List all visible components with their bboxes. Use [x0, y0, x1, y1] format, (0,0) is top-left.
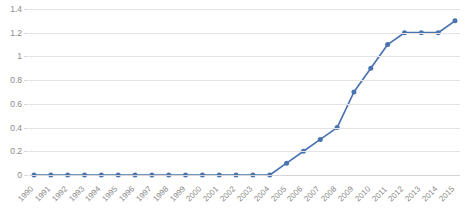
x-tick-label: 2014	[421, 185, 439, 203]
y-tick-mark	[24, 56, 28, 57]
gridline	[29, 9, 460, 10]
x-tick-label: 2010	[354, 185, 372, 203]
data-point-marker	[284, 161, 289, 166]
data-point-marker	[318, 137, 323, 142]
x-tick-label: 2003	[236, 185, 254, 203]
y-tick-mark	[24, 104, 28, 105]
plot-area	[29, 9, 460, 175]
y-tick-mark	[24, 80, 28, 81]
x-tick-label: 2008	[320, 185, 338, 203]
data-point-marker	[351, 90, 356, 95]
x-tick-label: 2000	[185, 185, 203, 203]
y-tick-label: 0	[17, 171, 22, 180]
x-tick-label: 1999	[169, 185, 187, 203]
x-tick-label: 2002	[219, 185, 237, 203]
x-tick-label: 1995	[101, 185, 119, 203]
y-tick-mark	[24, 9, 28, 10]
x-tick-label: 2006	[286, 185, 304, 203]
data-point-marker	[368, 66, 373, 71]
x-tick-label: 2015	[438, 185, 456, 203]
x-tick-label: 2012	[387, 185, 405, 203]
x-tick-label: 1997	[135, 185, 153, 203]
gridline	[29, 104, 460, 105]
y-tick-label: 1.4	[10, 5, 22, 14]
x-tick-label: 1996	[118, 185, 136, 203]
y-tick-label: 0.4	[10, 123, 22, 132]
data-series-line	[29, 9, 460, 175]
x-axis: 1990199119921993199419951996199719981999…	[29, 176, 460, 211]
x-tick-label: 2001	[202, 185, 220, 203]
y-tick-mark	[24, 175, 28, 176]
x-tick-label: 1992	[51, 185, 69, 203]
x-tick-label: 1998	[152, 185, 170, 203]
y-axis: 1.41.210.80.60.40.20	[0, 9, 22, 175]
gridline	[29, 128, 460, 129]
y-tick-label: 1	[17, 52, 22, 61]
chart-title	[0, 0, 465, 3]
gridline	[29, 56, 460, 57]
x-tick-label: 2005	[270, 185, 288, 203]
y-tick-mark	[24, 128, 28, 129]
gridline	[29, 80, 460, 81]
gridline	[29, 33, 460, 34]
x-tick-label: 1994	[84, 185, 102, 203]
y-tick-mark	[24, 33, 28, 34]
y-tick-label: 1.2	[10, 28, 22, 37]
x-tick-label: 2009	[337, 185, 355, 203]
y-tick-mark	[24, 151, 28, 152]
x-tick-label: 2004	[253, 185, 271, 203]
line-chart: 1.41.210.80.60.40.20 1990199119921993199…	[0, 0, 465, 211]
x-tick-label: 1993	[68, 185, 86, 203]
data-point-marker	[385, 42, 390, 47]
y-tick-label: 0.2	[10, 147, 22, 156]
x-tick-label: 2007	[303, 185, 321, 203]
x-tick-label: 1991	[34, 185, 52, 203]
gridline	[29, 151, 460, 152]
x-tick-label: 2011	[371, 186, 389, 204]
x-tick-label: 1990	[17, 185, 35, 203]
y-tick-label: 0.8	[10, 76, 22, 85]
x-tick-label: 2013	[404, 185, 422, 203]
y-tick-label: 0.6	[10, 100, 22, 109]
data-point-marker	[453, 18, 458, 23]
